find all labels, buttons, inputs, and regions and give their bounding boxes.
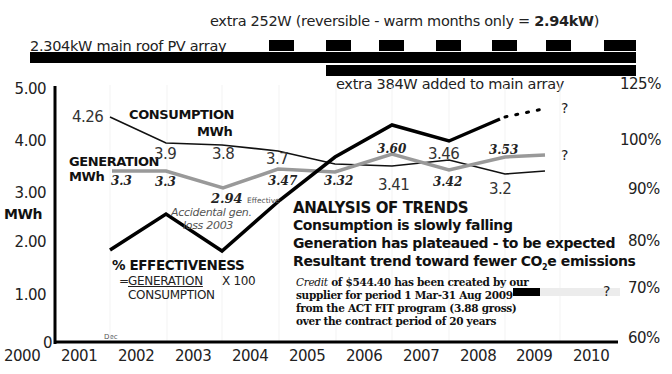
credit-line-1: Credit of $544.40 has been created by ou…: [296, 276, 528, 289]
generation-value-2001: 3.3: [111, 174, 132, 188]
effectiveness-projection-question: ?: [561, 100, 568, 116]
analysis-line-emissions: Resultant trend toward fewer CO2e emissi…: [293, 253, 635, 272]
effectiveness-denominator: CONSUMPTION: [128, 288, 215, 302]
effectiveness-numerator: GENERATION: [128, 274, 203, 288]
analysis-line-generation: Generation has plateaued - to be expecte…: [293, 235, 615, 251]
emissions-text-prefix: Resultant trend toward fewer CO: [293, 253, 542, 269]
consumption-value-2008: 3.2: [489, 180, 511, 198]
generation-value-2008: 3.53: [489, 143, 518, 157]
effectiveness-multiplier: X 100: [222, 274, 255, 288]
generation-projection-question: ?: [561, 147, 568, 163]
consumption-label: CONSUMPTION: [129, 107, 234, 122]
generation-value-2005: 3.32: [324, 174, 353, 188]
generation-label: GENERATION: [69, 154, 159, 169]
effectiveness-title: % EFFECTIVENESS: [112, 257, 244, 273]
consumption-value-2007: 3.46: [428, 145, 459, 163]
consumption-value-2006: 3.41: [378, 176, 409, 194]
credit-line-3: from the ACT FIT program (3.88 gross): [296, 302, 528, 315]
consumption-value-2001: 4.26: [72, 108, 103, 126]
credit-line-4: over the contract period of 20 years: [296, 315, 528, 328]
credit-note: Credit of $544.40 has been created by ou…: [296, 276, 528, 328]
analysis-title: ANALYSIS OF TRENDS: [293, 199, 468, 217]
credit-projection-question: ?: [603, 283, 610, 299]
consumption-unit: MWh: [197, 124, 232, 139]
generation-value-2007: 3.42: [433, 175, 462, 189]
effectiveness-projection: [505, 108, 548, 117]
accidental-note-line1: Accidental gen.: [171, 206, 252, 219]
accidental-note-line2: loss 2003: [183, 219, 233, 232]
generation-value-2003: 2.94: [211, 191, 243, 206]
credit-word: Credit: [296, 276, 328, 288]
consumption-value-2003: 3.8: [212, 145, 234, 163]
credit-line-2: supplier for period 1 Mar-31 Aug 2009: [296, 289, 528, 302]
generation-value-2006: 3.60: [377, 142, 406, 156]
generation-value-2004: 3.47: [268, 174, 297, 188]
consumption-value-2002: 3.9: [154, 145, 176, 163]
emissions-text-suffix: e emissions: [547, 253, 635, 269]
generation-value-2002: 3.3: [155, 175, 176, 189]
generation-unit: MWh: [69, 169, 104, 184]
effective-note: Effective: [247, 196, 280, 205]
consumption-value-2004: 3.7: [266, 150, 288, 168]
analysis-line-consumption: Consumption is slowly falling: [293, 217, 513, 233]
credit-line-1-rest: of $544.40 has been created by our: [328, 276, 529, 288]
